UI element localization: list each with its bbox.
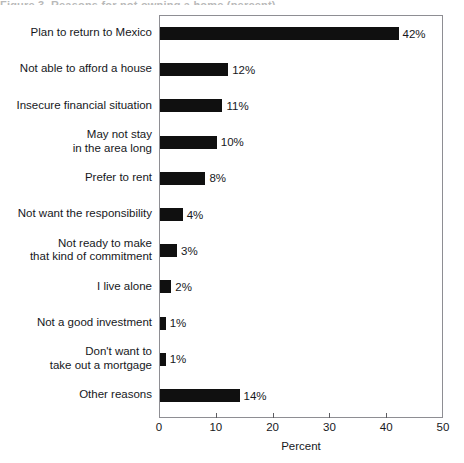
x-tick-label: 50 — [428, 421, 458, 434]
bar — [160, 27, 399, 40]
bar — [160, 317, 166, 330]
x-tick — [216, 413, 217, 418]
bar-value-label: 3% — [181, 245, 198, 258]
bar — [160, 172, 205, 185]
figure-title: Figure 3. Reasons for not owning a home … — [0, 0, 464, 5]
category-label: Other reasons — [0, 388, 152, 402]
category-label: Don't want to take out a mortgage — [0, 345, 152, 372]
category-label: Not a good investment — [0, 316, 152, 330]
bar-value-label: 10% — [221, 136, 244, 149]
x-tick-label: 40 — [371, 421, 401, 434]
category-label: Not want the responsibility — [0, 207, 152, 221]
bar — [160, 208, 183, 221]
bar — [160, 280, 171, 293]
category-label: I live alone — [0, 280, 152, 294]
x-axis-title: Percent — [159, 440, 443, 452]
x-tick — [329, 413, 330, 418]
x-tick-label: 10 — [201, 421, 231, 434]
bar-value-label: 8% — [209, 172, 226, 185]
chart-figure: Figure 3. Reasons for not owning a home … — [0, 0, 464, 463]
bar-value-label: 14% — [244, 390, 267, 403]
bar-value-label: 2% — [175, 281, 192, 294]
bar — [160, 99, 222, 112]
bar-value-label: 4% — [187, 209, 204, 222]
bar-value-label: 1% — [170, 317, 187, 330]
bar — [160, 389, 240, 402]
category-label: May not stay in the area long — [0, 128, 152, 155]
category-label: Not able to afford a house — [0, 62, 152, 76]
bar — [160, 244, 177, 257]
category-label: Plan to return to Mexico — [0, 26, 152, 40]
category-label: Prefer to rent — [0, 171, 152, 185]
category-label: Insecure financial situation — [0, 99, 152, 113]
x-tick-label: 30 — [314, 421, 344, 434]
bar — [160, 63, 228, 76]
x-tick — [386, 413, 387, 418]
bar-value-label: 12% — [232, 64, 255, 77]
x-tick-label: 20 — [258, 421, 288, 434]
category-label: Not ready to make that kind of commitmen… — [0, 237, 152, 264]
bar-value-label: 42% — [403, 28, 426, 41]
bar-value-label: 11% — [226, 100, 248, 113]
x-tick — [273, 413, 274, 418]
bar — [160, 136, 217, 149]
bar-value-label: 1% — [170, 353, 187, 366]
x-tick-label: 0 — [144, 421, 174, 434]
bar — [160, 353, 166, 366]
